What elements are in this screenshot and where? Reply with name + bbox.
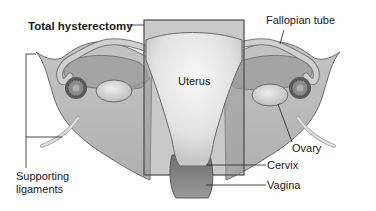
left-broad-ligament	[36, 42, 152, 180]
label-fallopian-tube: Fallopian tube	[266, 14, 335, 26]
left-round-ligament	[42, 118, 78, 146]
right-fimbriae	[289, 77, 311, 99]
label-vagina: Vagina	[267, 179, 300, 191]
label-supporting-ligaments-2: ligaments	[16, 183, 63, 195]
hysterectomy-diagram: Total hysterectomy Fallopian tube Uterus…	[0, 0, 376, 211]
label-uterus: Uterus	[178, 75, 210, 87]
label-total-hysterectomy: Total hysterectomy	[28, 20, 133, 32]
label-supporting-ligaments-1: Supporting	[16, 170, 69, 182]
label-cervix: Cervix	[267, 159, 298, 171]
label-ovary: Ovary	[292, 142, 321, 154]
left-fimbriae	[65, 77, 87, 99]
